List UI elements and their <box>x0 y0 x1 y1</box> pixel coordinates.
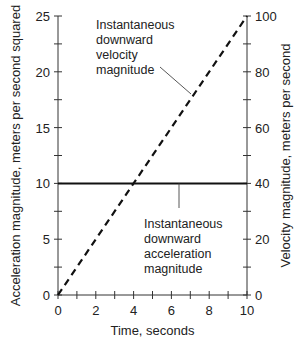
x-tick-label: 6 <box>168 303 175 318</box>
dual-axis-line-chart: 02468100510152025020406080100 Instantane… <box>0 0 306 344</box>
left-y-axis-title: Acceleration magnitude, meters per secon… <box>8 5 23 306</box>
left-y-tick-label: 10 <box>36 176 50 191</box>
acceleration-annotation: Instantaneousdownwardaccelerationmagnitu… <box>144 217 223 276</box>
right-y-axis-title: Velocity magnitude, meters per second <box>278 43 293 267</box>
right-y-tick-label: 20 <box>255 232 269 247</box>
x-tick-label: 8 <box>206 303 213 318</box>
x-tick-label: 10 <box>240 303 254 318</box>
x-tick-label: 2 <box>92 303 99 318</box>
x-axis-title: Time, seconds <box>110 323 195 338</box>
right-y-tick-label: 80 <box>255 65 269 80</box>
left-y-tick-label: 0 <box>43 288 50 303</box>
right-y-tick-label: 0 <box>255 288 262 303</box>
velocity-leader-line <box>160 67 191 94</box>
right-y-tick-label: 60 <box>255 121 269 136</box>
left-y-tick-label: 25 <box>36 9 50 24</box>
left-y-tick-label: 5 <box>43 232 50 247</box>
velocity-annotation: Instantaneousdownwardvelocitymagnitude <box>96 18 175 77</box>
x-tick-label: 4 <box>130 303 137 318</box>
left-y-tick-label: 20 <box>36 65 50 80</box>
right-y-tick-label: 100 <box>255 9 277 24</box>
right-y-tick-label: 40 <box>255 176 269 191</box>
axis-labels: Time, secondsAcceleration magnitude, met… <box>8 5 293 338</box>
left-y-tick-label: 15 <box>36 121 50 136</box>
annotations: InstantaneousdownwardvelocitymagnitudeIn… <box>96 18 223 276</box>
x-tick-label: 0 <box>54 303 61 318</box>
